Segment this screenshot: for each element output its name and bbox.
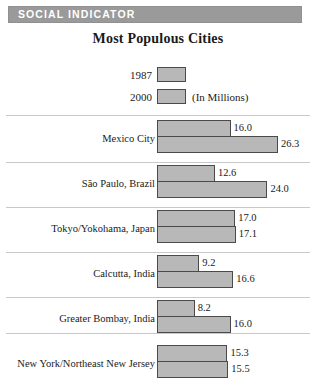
chart-plot-area: Mexico City16.026.3São Paulo, Brazil12.6… [0, 118, 316, 387]
chart-row: Calcutta, India9.216.6 [0, 253, 316, 298]
bar-2000 [157, 181, 267, 198]
chart-row: Greater Bombay, India8.216.0 [0, 298, 316, 343]
legend-label-2000: 2000 [130, 91, 152, 103]
bar-value-label: 16.0 [234, 122, 252, 133]
legend-item-1987: 1987 [0, 66, 316, 88]
category-label: Tokyo/Yokohama, Japan [51, 223, 155, 234]
bar-2000 [157, 361, 228, 378]
bar-2000 [157, 316, 231, 333]
bar-value-label: 15.5 [231, 363, 249, 374]
bar-1987 [157, 165, 215, 182]
divider-rule [6, 115, 310, 116]
bar-1987 [157, 345, 227, 362]
bar-value-label: 26.3 [281, 138, 299, 149]
bar-value-label: 17.1 [239, 228, 257, 239]
chart-row: São Paulo, Brazil12.624.0 [0, 163, 316, 208]
bar-value-label: 8.2 [198, 302, 211, 313]
chart-legend: 1987 2000 (In Millions) [0, 66, 316, 110]
category-label: New York/Northeast New Jersey [17, 358, 155, 369]
legend-swatch-2000 [157, 89, 186, 104]
legend-swatch-1987 [157, 67, 186, 82]
bar-1987 [157, 300, 195, 317]
bar-value-label: 24.0 [270, 183, 288, 194]
category-label: Mexico City [102, 133, 155, 144]
bar-value-label: 9.2 [202, 257, 215, 268]
social-indicator-band: SOCIAL INDICATOR [8, 6, 302, 23]
bar-2000 [157, 136, 278, 153]
bar-value-label: 12.6 [218, 167, 236, 178]
legend-item-2000: 2000 (In Millions) [0, 88, 316, 110]
bar-1987 [157, 255, 199, 272]
chart-row: New York/Northeast New Jersey15.315.5 [0, 343, 316, 387]
category-label: Calcutta, India [93, 268, 155, 279]
bar-value-label: 15.3 [230, 347, 248, 358]
bar-2000 [157, 271, 233, 288]
bar-1987 [157, 120, 231, 137]
bar-value-label: 16.6 [236, 273, 254, 284]
chart-title: Most Populous Cities [0, 31, 316, 47]
category-label: Greater Bombay, India [59, 313, 155, 324]
social-indicator-label: SOCIAL INDICATOR [18, 8, 135, 20]
chart-row: Mexico City16.026.3 [0, 118, 316, 163]
bar-2000 [157, 226, 236, 243]
chart-row: Tokyo/Yokohama, Japan17.017.1 [0, 208, 316, 253]
legend-unit-note: (In Millions) [192, 91, 249, 103]
bar-1987 [157, 210, 235, 227]
bar-value-label: 16.0 [234, 318, 252, 329]
category-label: São Paulo, Brazil [82, 178, 155, 189]
legend-label-1987: 1987 [130, 69, 152, 81]
bar-value-label: 17.0 [238, 212, 256, 223]
